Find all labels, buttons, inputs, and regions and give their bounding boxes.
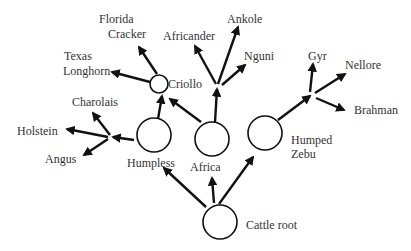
label-ankole: Ankole (227, 12, 262, 26)
edge-to-gyr (310, 64, 313, 92)
label-cracker: Cracker (108, 27, 146, 41)
label-africander: Africander (163, 29, 215, 43)
edge-africa-junction (215, 89, 217, 122)
label-nellore: Nellore (345, 58, 381, 72)
edges (67, 27, 345, 207)
edge-to-nguni (222, 65, 245, 85)
label-texas: Texas (64, 49, 92, 63)
label-zebu-line1: Humped (291, 133, 332, 147)
label-criollo: Criollo (168, 77, 202, 91)
label-zebu-line2: Zebu (291, 147, 316, 161)
label-cattle-root: Cattle root (246, 218, 298, 232)
edge-root-zebu (219, 157, 253, 204)
node-humped-zebu (248, 116, 282, 150)
edge-humpless-criollo (158, 96, 162, 119)
edge-to-nellore (315, 74, 345, 93)
label-longhorn: Longhorn (63, 64, 110, 78)
label-angus: Angus (45, 152, 77, 166)
edge-zebu-junction (278, 96, 310, 120)
label-humpless: Humpless (127, 156, 175, 170)
label-brahman: Brahman (354, 103, 398, 117)
phylogeny-diagram: Cattle root Humpless Africa Humped Zebu … (0, 0, 411, 251)
edge-to-florida-cracker (139, 47, 157, 74)
node-africa (195, 122, 229, 156)
node-criollo (150, 75, 168, 93)
edge-africa-criollo (170, 99, 201, 122)
label-gyr: Gyr (308, 49, 327, 63)
label-charolais: Charolais (72, 95, 118, 109)
edge-to-ankole (218, 27, 238, 84)
edge-to-charolais (93, 113, 110, 135)
edge-to-brahman (316, 98, 344, 110)
label-florida: Florida (99, 12, 134, 26)
label-holstein: Holstein (17, 124, 58, 138)
label-africa: Africa (190, 160, 221, 174)
edge-humpless-junction (113, 137, 134, 140)
edge-to-texas-longhorn (112, 72, 150, 82)
node-humpless (137, 118, 171, 152)
edge-to-angus (84, 139, 108, 155)
label-nguni: Nguni (244, 49, 275, 63)
node-cattle-root (203, 205, 237, 239)
edge-to-holstein (67, 129, 108, 137)
edge-root-africa (212, 178, 214, 203)
